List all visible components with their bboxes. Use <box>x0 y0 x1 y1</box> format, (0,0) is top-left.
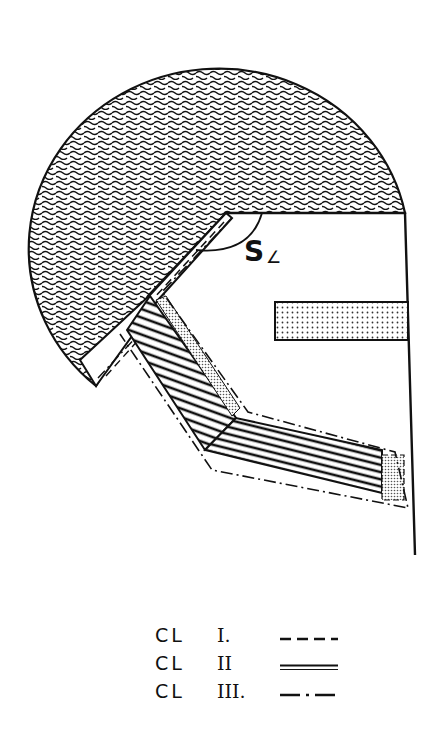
legend-class: III. <box>217 680 246 702</box>
legend-class: I. <box>217 624 231 646</box>
legend-item-cl-ii: CL II <box>155 652 355 680</box>
horizontal-bar <box>275 302 408 340</box>
legend-item-cl-i: CL I. <box>155 624 355 652</box>
legend-class: II <box>217 652 232 674</box>
angle-label: S <box>244 235 264 268</box>
dashed-line-icon <box>280 636 338 642</box>
double-line-icon <box>280 664 338 670</box>
legend-prefix: CL <box>155 680 185 702</box>
legend: CL I. CL II CL III. <box>155 624 355 708</box>
dash-dot-line-icon <box>280 692 338 698</box>
legend-item-cl-iii: CL III. <box>155 680 355 708</box>
shoulder-band-horizontal <box>205 418 382 493</box>
legend-prefix: CL <box>155 624 185 646</box>
legend-prefix: CL <box>155 652 185 674</box>
angle-symbol: ∠ <box>266 247 281 267</box>
